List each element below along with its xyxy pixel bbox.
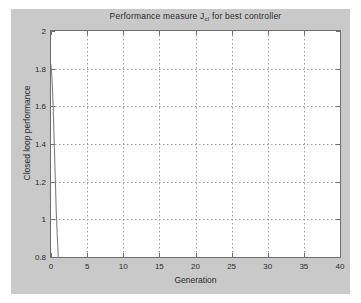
chart-title: Performance measure Jcl for best control…	[50, 11, 341, 21]
performance-chart: Performance measure Jcl for best control…	[0, 0, 361, 303]
gridlines	[51, 31, 340, 257]
x-tick-label: 5	[75, 262, 99, 271]
x-tick-label: 35	[292, 262, 316, 271]
x-axis-label: Generation	[50, 275, 341, 285]
x-axis-tick-labels: 0510152025303540	[50, 262, 341, 274]
series-line	[51, 65, 340, 257]
x-tick-label: 25	[220, 262, 244, 271]
plot-area	[50, 30, 341, 258]
y-tick-label: 1	[4, 215, 46, 224]
x-tick-label: 15	[147, 262, 171, 271]
x-tick-label: 0	[39, 262, 63, 271]
chart-title-main: Performance measure J	[110, 11, 205, 21]
x-tick-label: 10	[111, 262, 135, 271]
y-tick-label: 2	[4, 27, 46, 36]
x-tick-label: 40	[328, 262, 352, 271]
y-axis-label: Closed loop performance	[22, 53, 32, 213]
plot-canvas	[51, 31, 340, 257]
x-tick-label: 20	[184, 262, 208, 271]
chart-title-suffix: for best controller	[209, 11, 281, 21]
x-tick-label: 30	[256, 262, 280, 271]
y-tick-label: 0.8	[4, 253, 46, 262]
chart-title-subscript: cl	[205, 15, 210, 22]
data-series	[51, 65, 340, 257]
